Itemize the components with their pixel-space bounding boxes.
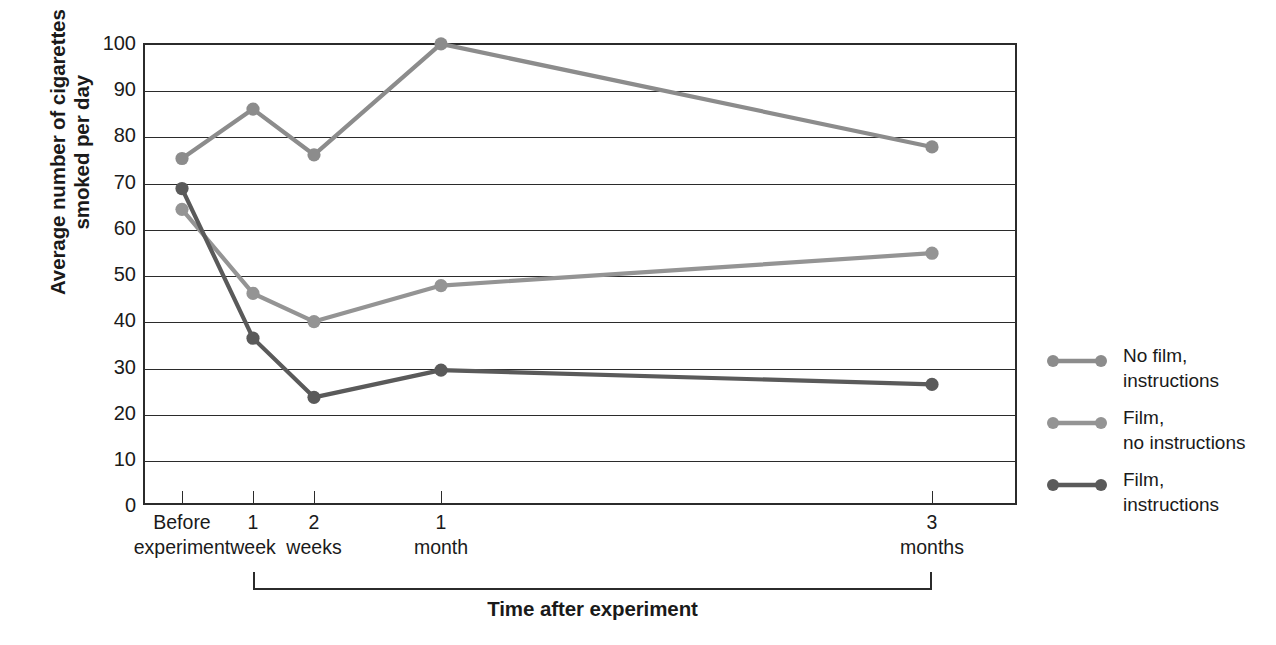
data-point: [246, 287, 259, 300]
data-point: [925, 140, 938, 153]
time-range-bracket: [253, 572, 932, 590]
legend-item-film-instructions[interactable]: Film, instructions: [1046, 472, 1271, 528]
y-tick-label: 80: [78, 125, 136, 145]
data-series-layer: [143, 43, 1017, 505]
series-0: [175, 37, 938, 165]
y-tick-label: 10: [78, 449, 136, 469]
legend-label: No film, instructions: [1123, 344, 1219, 393]
x-tick-1-week: [253, 491, 254, 505]
y-tick-label: 30: [78, 357, 136, 377]
y-tick-label: 100: [78, 33, 136, 53]
legend-item-film-no-instructions[interactable]: Film, no instructions: [1046, 410, 1271, 466]
y-tick-label: 20: [78, 403, 136, 423]
data-point: [246, 332, 259, 345]
x-tick-3-months: [932, 491, 933, 505]
series-line: [182, 44, 932, 159]
series-2: [175, 182, 938, 404]
y-tick-label: 90: [78, 79, 136, 99]
series-1: [175, 203, 938, 328]
x-axis-title: Time after experiment: [253, 597, 932, 621]
series-line: [182, 189, 932, 398]
x-tick-label: 1 month: [356, 510, 526, 560]
x-tick-2-weeks: [314, 491, 315, 505]
data-point: [434, 279, 447, 292]
legend-item-no-film-instructions[interactable]: No film, instructions: [1046, 348, 1271, 404]
y-tick-label: 40: [78, 310, 136, 330]
data-point: [246, 102, 259, 115]
legend-label: Film, instructions: [1123, 468, 1219, 517]
data-point: [925, 247, 938, 260]
x-tick-label: 3 months: [847, 510, 1017, 560]
data-point: [175, 182, 188, 195]
legend-label: Film, no instructions: [1123, 406, 1246, 455]
legend-swatch-icon: [1046, 478, 1108, 492]
data-point: [434, 363, 447, 376]
data-point: [925, 378, 938, 391]
y-tick-label: 60: [78, 218, 136, 238]
legend-swatch-icon: [1046, 354, 1108, 368]
data-point: [307, 391, 320, 404]
y-tick-label: 50: [78, 264, 136, 284]
data-point: [307, 315, 320, 328]
data-point: [175, 152, 188, 165]
legend-swatch-icon: [1046, 416, 1108, 430]
chart-root: Average number of cigarettes smoked per …: [0, 0, 1276, 645]
x-tick-1-month: [441, 491, 442, 505]
data-point: [175, 203, 188, 216]
data-point: [434, 37, 447, 50]
y-tick-label: 70: [78, 172, 136, 192]
x-tick-before-experiment: [182, 491, 183, 505]
series-line: [182, 209, 932, 321]
data-point: [307, 148, 320, 161]
